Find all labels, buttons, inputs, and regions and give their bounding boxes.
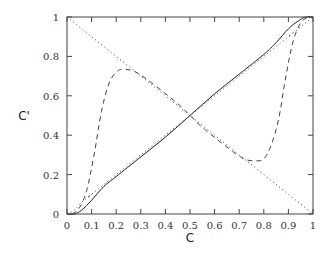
- x-tick-label: 0.3: [133, 220, 149, 231]
- y-tick-label: 0.2: [43, 170, 59, 181]
- plot-curves: [67, 17, 313, 215]
- y-tick-label: 0: [53, 209, 59, 220]
- x-tick-label: 0.5: [182, 220, 198, 231]
- x-tick-label: 0.7: [231, 220, 247, 231]
- x-tick-label: 0.2: [108, 220, 124, 231]
- x-tick-label: 0: [64, 220, 70, 231]
- y-tick-label: 1: [53, 12, 59, 23]
- y-axis-label: C': [18, 109, 30, 123]
- x-axis-label: C: [186, 231, 194, 245]
- y-tick-label: 0.4: [43, 130, 59, 141]
- x-tick-label: 0.8: [256, 220, 272, 231]
- x-tick-label: 1: [310, 220, 316, 231]
- y-tick-label: 0.6: [43, 91, 59, 102]
- x-tick-label: 0.1: [84, 220, 100, 231]
- x-tick-label: 0.4: [157, 220, 173, 231]
- chart: 00.10.20.30.40.50.60.70.80.9100.20.40.60…: [0, 0, 333, 257]
- x-tick-label: 0.9: [280, 220, 296, 231]
- x-tick-label: 0.6: [207, 220, 223, 231]
- y-tick-label: 0.8: [43, 51, 59, 62]
